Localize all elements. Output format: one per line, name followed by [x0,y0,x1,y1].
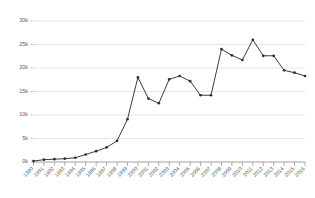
data-point-marker [283,69,286,72]
x-axis-label: 1999 [116,165,128,177]
x-axis-label: 2010 [231,165,243,177]
y-axis-label: 0k [22,158,28,164]
data-point-marker [304,75,307,78]
data-point-marker [43,158,46,161]
y-axis-label: 5k [22,135,28,141]
data-point-marker [126,118,129,121]
data-point-marker [199,94,202,97]
y-axis-labels-group: 0k5k10k15k20k25k30k [19,17,28,164]
data-point-marker [293,71,296,74]
data-point-marker [210,94,213,97]
x-axis-label: 2006 [189,165,201,177]
x-axis-label: 2007 [199,165,211,177]
x-axis-label: 2001 [137,165,149,177]
y-axis-label: 10k [19,111,28,117]
data-point-marker [231,54,234,57]
y-tick-stubs-group [30,21,33,162]
x-axis-label: 1994 [64,165,76,177]
data-point-marker [116,140,119,143]
series-line-group [34,40,306,161]
x-axis-label: 1996 [84,165,96,177]
data-point-marker [147,97,150,100]
data-point-marker [251,38,254,41]
x-axis-label: 2002 [147,165,159,177]
data-point-marker [105,146,108,149]
x-axis-labels-group: 1990199119921993199419951996199719981999… [22,165,306,177]
x-axis-label: 1992 [43,165,55,177]
data-point-marker [262,54,265,57]
x-axis-label: 1990 [22,165,34,177]
data-point-marker [32,160,35,163]
x-axis-label: 1995 [74,165,86,177]
data-point-marker [137,76,140,79]
x-axis-label: 2005 [178,165,190,177]
data-point-marker [74,156,77,159]
y-axis-label: 30k [19,17,28,23]
data-point-marker [95,150,98,153]
x-axis-label: 2016 [293,165,305,177]
y-axis-label: 20k [19,64,28,70]
y-axis-label: 25k [19,41,28,47]
data-point-marker [178,75,181,78]
x-tickmarks-group [34,162,306,166]
data-markers-group [32,38,306,162]
series-line [34,40,306,161]
data-point-marker [84,153,87,156]
x-axis-label: 2004 [168,165,180,177]
x-axis-label: 1998 [105,165,117,177]
data-point-marker [157,102,160,105]
x-axis-label: 2011 [241,165,253,177]
x-axis-label: 2009 [220,165,232,177]
x-axis-label: 2012 [252,165,264,177]
x-axis-label: 2008 [210,165,222,177]
data-point-marker [53,158,56,161]
data-point-marker [168,78,171,81]
data-point-marker [241,59,244,62]
x-axis-label: 2015 [283,165,295,177]
x-axis-label: 2003 [158,165,170,177]
chart-container: 0k5k10k15k20k25k30k 19901991199219931994… [0,0,315,198]
y-axis-label: 15k [19,88,28,94]
x-axis-label: 1991 [32,165,44,177]
data-point-marker [272,54,275,57]
data-point-marker [63,157,66,160]
x-axis-label: 1993 [53,165,65,177]
data-point-marker [220,48,223,51]
x-axis-label: 1997 [95,165,107,177]
x-axis-label: 2013 [262,165,274,177]
x-axis-label: 2014 [272,165,284,177]
data-point-marker [189,80,192,83]
line-chart: 0k5k10k15k20k25k30k 19901991199219931994… [0,0,315,198]
x-axis-label: 2000 [126,165,138,177]
